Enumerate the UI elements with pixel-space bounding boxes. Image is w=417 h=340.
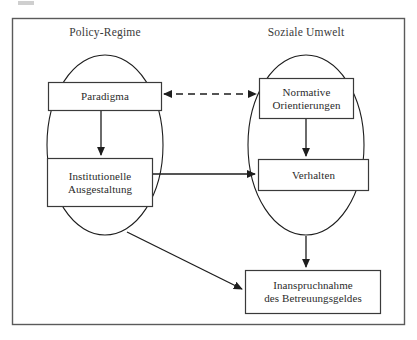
node-box-institutionelle-ausgestaltung [48,159,153,207]
node-box-paradigma [49,83,162,111]
node-box-verhalten [259,160,369,191]
figure-canvas: normative (dashed, double headed) --> Po… [0,0,417,340]
group-title-policy-regime-text: Policy-Regime [69,26,141,38]
node-box-normative-orientierungen [260,79,354,119]
node-box-inanspruchnahme [246,271,381,314]
diagram-vector-layer: normative (dashed, double headed) --> [0,0,417,340]
group-title-soziale-umwelt-text: Soziale Umwelt [268,26,345,38]
group-title-policy-regime: Policy-Regime [47,26,163,38]
group-title-soziale-umwelt: Soziale Umwelt [248,26,364,38]
